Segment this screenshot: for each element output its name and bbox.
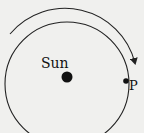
orbit-diagram: Sun P <box>0 0 144 133</box>
sun-dot <box>62 72 73 83</box>
point-p-label: P <box>129 78 138 93</box>
point-p-dot <box>123 78 129 84</box>
sun-label: Sun <box>41 55 69 71</box>
